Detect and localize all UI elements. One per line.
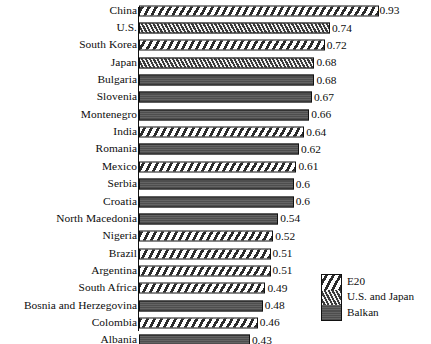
bar-value-label: 0.74: [332, 22, 352, 33]
bar-us-and-japan: [139, 57, 314, 68]
bar-value-label: 0.67: [314, 92, 334, 103]
bar-row: Albania 0.43: [0, 332, 431, 344]
bar-value-label: 0.54: [280, 213, 300, 224]
category-label: Serbia: [108, 178, 137, 189]
bar-value-label: 0.68: [316, 57, 336, 68]
category-label: U.S.: [117, 22, 137, 33]
bar-container: 0.68: [139, 57, 314, 68]
bar-balkan: [139, 75, 314, 86]
legend-item-balkan: Balkan: [321, 305, 429, 321]
bar-value-label: 0.61: [298, 161, 318, 172]
bar-container: 0.61: [139, 161, 296, 172]
category-label: Brazil: [109, 248, 137, 259]
bar-balkan: [139, 213, 278, 224]
bar-row: South Korea 0.72: [0, 37, 431, 54]
bar-container: 0.51: [139, 265, 271, 276]
bar-value-label: 0.64: [306, 126, 326, 137]
category-label: Nigeria: [102, 231, 137, 242]
bar-balkan: [139, 196, 294, 207]
bar-e20: [139, 231, 273, 242]
category-label: China: [110, 5, 137, 16]
category-label: Albania: [101, 335, 137, 344]
bar-value-label: 0.68: [316, 74, 336, 85]
bar-value-label: 0.93: [380, 5, 400, 16]
category-label: North Macedonia: [56, 213, 137, 224]
bar-container: 0.43: [139, 335, 250, 344]
chart-legend: E20 U.S. and Japan Balkan: [321, 274, 429, 321]
bar-e20: [139, 161, 296, 172]
bar-container: 0.67: [139, 92, 312, 103]
bar-row: Brazil 0.51: [0, 245, 431, 262]
bar-e20: [139, 283, 265, 294]
bar-e20: [139, 5, 379, 16]
bar-container: 0.49: [139, 283, 265, 294]
bar-container: 0.64: [139, 127, 304, 138]
bar-balkan: [139, 335, 250, 344]
horizontal-bar-chart: China 0.93 U.S. 0.74 South Korea 0.72 Ja…: [0, 0, 431, 344]
bar-container: 0.54: [139, 213, 278, 224]
bar-balkan: [139, 179, 294, 190]
bar-container: 0.51: [139, 248, 271, 259]
bar-container: 0.72: [139, 40, 325, 51]
bar-row: India 0.64: [0, 123, 431, 140]
bar-us-and-japan: [139, 23, 330, 34]
category-label: Japan: [111, 57, 137, 68]
bar-row: China 0.93: [0, 2, 431, 19]
legend-swatch-us-and-japan-icon: [321, 290, 342, 306]
category-label: Colombia: [92, 317, 137, 328]
bar-value-label: 0.48: [265, 300, 285, 311]
bar-container: 0.62: [139, 144, 299, 155]
bar-container: 0.68: [139, 75, 314, 86]
bar-value-label: 0.66: [311, 109, 331, 120]
bar-value-label: 0.62: [301, 144, 321, 155]
legend-label: U.S. and Japan: [347, 292, 414, 303]
bar-row: Mexico 0.61: [0, 158, 431, 175]
category-label: Mexico: [102, 161, 137, 172]
bar-value-label: 0.6: [296, 196, 310, 207]
legend-label: Balkan: [347, 307, 379, 318]
legend-item-e20: E20: [321, 274, 429, 290]
bar-value-label: 0.51: [273, 265, 293, 276]
bar-row: Croatia 0.6: [0, 193, 431, 210]
category-label: Romania: [96, 144, 137, 155]
category-label: South Korea: [79, 40, 137, 51]
bar-balkan: [139, 144, 299, 155]
bar-value-label: 0.46: [260, 317, 280, 328]
category-label: Slovenia: [97, 92, 137, 103]
legend-label: E20: [347, 276, 365, 287]
bar-container: 0.66: [139, 109, 309, 120]
bar-value-label: 0.6: [296, 178, 310, 189]
bar-container: 0.6: [139, 196, 294, 207]
bar-row: Montenegro 0.66: [0, 106, 431, 123]
bar-value-label: 0.49: [267, 283, 287, 294]
category-label: India: [113, 126, 137, 137]
bar-value-label: 0.51: [273, 248, 293, 259]
category-label: South Africa: [79, 283, 138, 294]
bar-e20: [139, 265, 271, 276]
bar-row: Serbia 0.6: [0, 176, 431, 193]
bar-row: Japan 0.68: [0, 54, 431, 71]
bar-value-label: 0.72: [327, 40, 347, 51]
bar-value-label: 0.43: [252, 335, 272, 344]
bar-value-label: 0.52: [275, 231, 295, 242]
bar-balkan: [139, 300, 263, 311]
legend-swatch-e20-icon: [321, 274, 342, 290]
bar-row: Slovenia 0.67: [0, 89, 431, 106]
legend-item-us-and-japan: U.S. and Japan: [321, 290, 429, 306]
bar-e20: [139, 127, 304, 138]
bar-container: 0.46: [139, 317, 258, 328]
bar-e20: [139, 248, 271, 259]
bar-e20: [139, 40, 325, 51]
legend-swatch-balkan-icon: [321, 305, 342, 321]
bar-container: 0.6: [139, 179, 294, 190]
bar-container: 0.74: [139, 23, 330, 34]
bar-e20: [139, 317, 258, 328]
category-label: Croatia: [103, 196, 137, 207]
category-label: Bulgaria: [97, 74, 137, 85]
bar-balkan: [139, 92, 312, 103]
bar-row: Romania 0.62: [0, 141, 431, 158]
bar-row: U.S. 0.74: [0, 19, 431, 36]
bar-row: Nigeria 0.52: [0, 228, 431, 245]
bar-balkan: [139, 109, 309, 120]
category-label: Bosnia and Herzegovina: [24, 300, 137, 311]
